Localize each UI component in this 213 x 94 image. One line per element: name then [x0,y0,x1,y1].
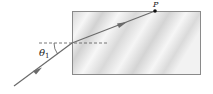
refraction-diagram: θ1 P [0,0,213,94]
point-p [153,9,157,13]
angle-label: θ1 [39,47,50,60]
angle-arc [54,43,58,54]
point-label: P [152,0,159,9]
